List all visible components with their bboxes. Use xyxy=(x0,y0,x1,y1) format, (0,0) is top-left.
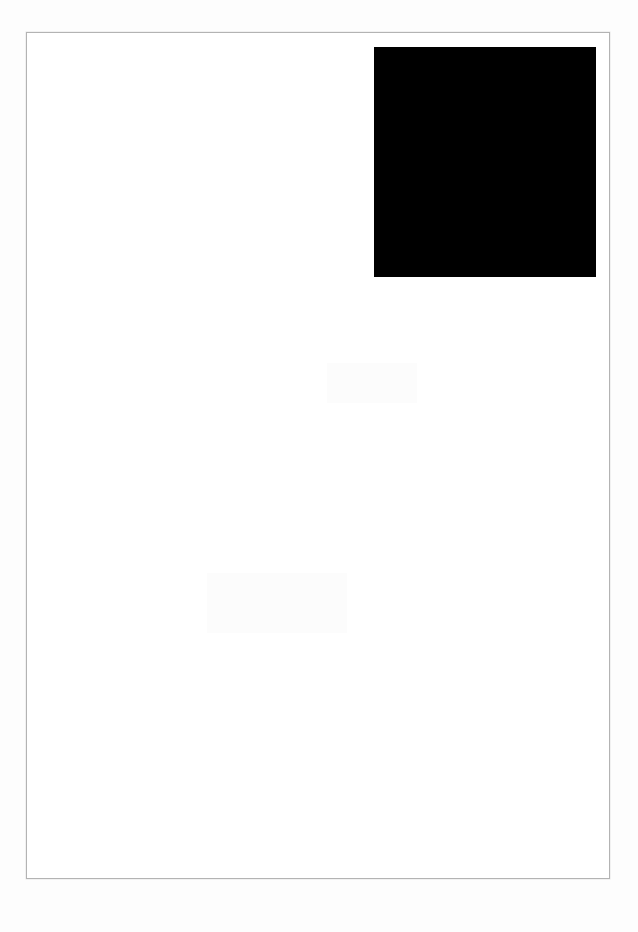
paper-grain-mark xyxy=(207,573,347,633)
black-square-figure xyxy=(374,47,596,277)
artboard xyxy=(27,33,609,878)
artwork-canvas xyxy=(0,0,638,932)
page-frame xyxy=(26,32,610,879)
paper-grain-mark xyxy=(327,363,417,403)
caption-area xyxy=(26,885,610,925)
